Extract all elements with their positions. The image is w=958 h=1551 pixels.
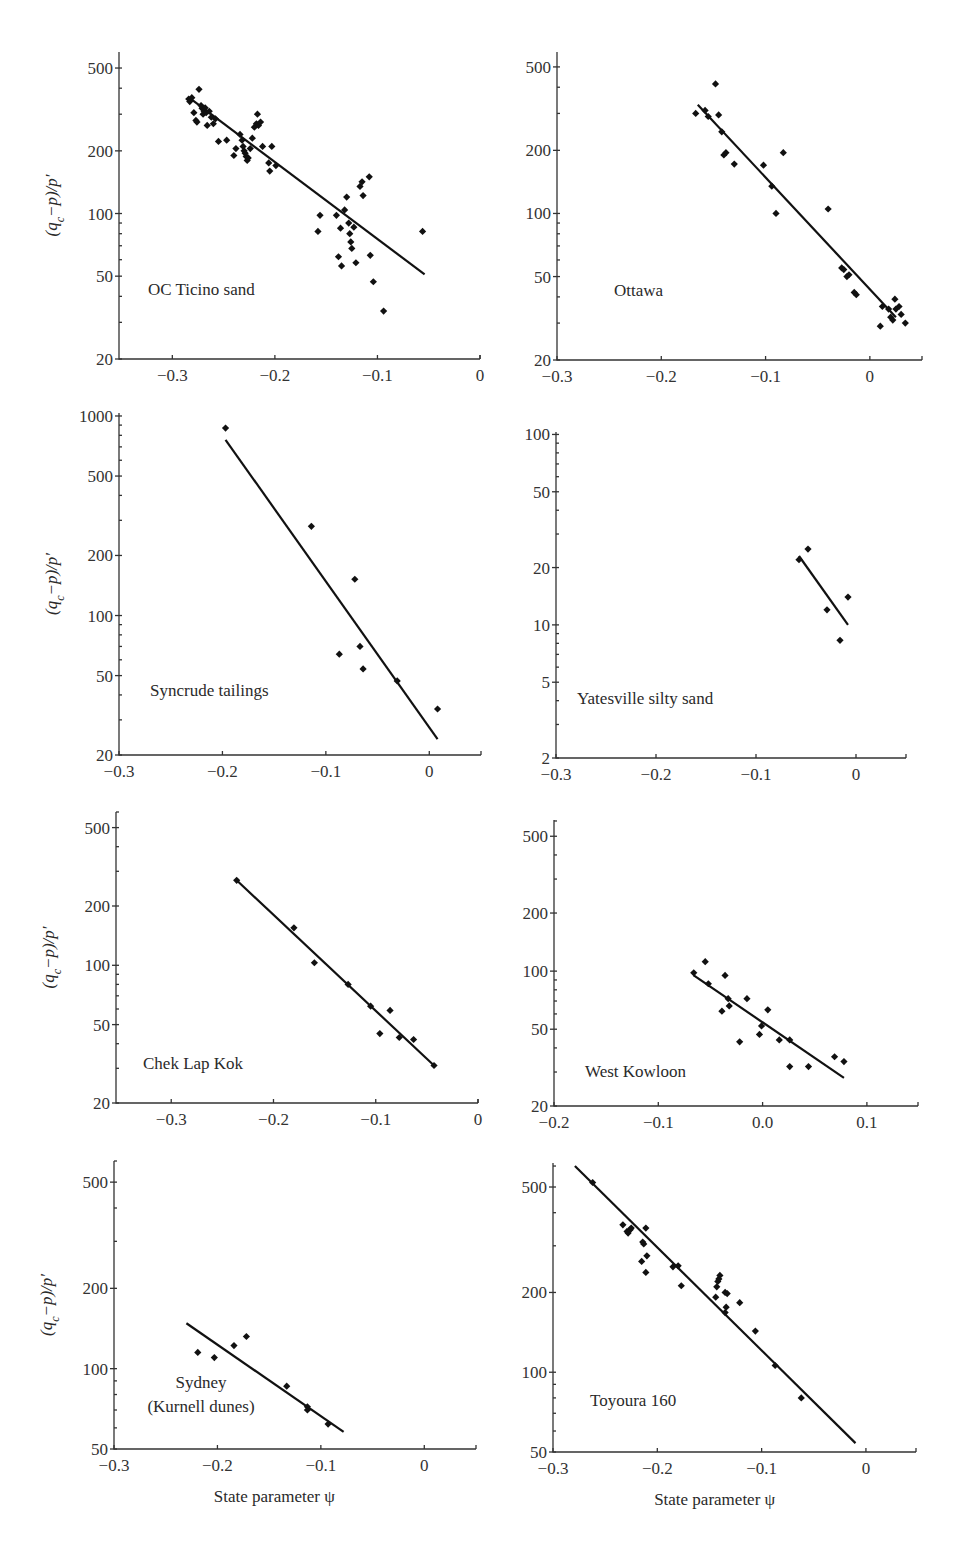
y-tick-label: 100 [88, 205, 114, 224]
y-tick-label: 100 [523, 962, 549, 981]
data-point [204, 122, 211, 129]
panel-yatesville-silty-sand: 25102050100−0.3−0.2−0.10Yatesville silty… [525, 425, 907, 784]
axes [557, 52, 922, 360]
figure-grid: 2050100200500−0.3−0.2−0.10OC Ticino sand… [0, 0, 958, 1551]
y-tick-label: 200 [526, 141, 552, 160]
y-tick-label: 100 [88, 607, 114, 626]
x-tick-label: −0.3 [157, 366, 188, 385]
y-tick-label: 50 [96, 267, 113, 286]
y-tick-label: 200 [522, 1283, 548, 1302]
x-tick-label: −0.2 [207, 762, 238, 781]
panel-label: West Kowloon [585, 1062, 687, 1081]
data-point [723, 1304, 730, 1311]
x-axis-label: State parameter ψ [214, 1487, 335, 1506]
data-point [211, 1354, 218, 1361]
trend-line [237, 880, 434, 1065]
x-tick-label: −0.1 [305, 1456, 336, 1475]
x-tick-label: 0 [425, 762, 434, 781]
x-tick-label: −0.1 [746, 1459, 777, 1478]
data-point [343, 193, 350, 200]
y-tick-label: 200 [88, 546, 114, 565]
data-point [701, 107, 708, 114]
x-tick-label: 0.1 [856, 1113, 877, 1132]
y-tick-label: 500 [523, 827, 549, 846]
panel-syncrude-tailings: 20501002005001000−0.3−0.2−0.10Syncrude t… [42, 407, 481, 781]
data-point [359, 192, 366, 199]
x-axis-label: State parameter ψ [654, 1490, 775, 1509]
panel-west-kowloon: 2050100200500−0.2−0.10.00.1West Kowloon [523, 820, 919, 1132]
x-tick-label: −0.1 [750, 367, 781, 386]
data-point [370, 278, 377, 285]
x-tick-label: −0.2 [258, 1110, 289, 1129]
data-point [823, 606, 830, 613]
panel-sydney-kurnell-dunes: 50100200500−0.3−0.2−0.10Sydney(Kurnell d… [37, 1161, 476, 1506]
panel-oc-ticino-sand: 2050100200500−0.3−0.2−0.10OC Ticino sand… [42, 52, 484, 385]
panel-label: Ottawa [614, 281, 664, 300]
data-point [891, 296, 898, 303]
data-point [642, 1269, 649, 1276]
data-point [731, 160, 738, 167]
y-tick-label: 500 [526, 58, 552, 77]
trend-line [191, 99, 425, 274]
data-point [844, 593, 851, 600]
data-point [736, 1038, 743, 1045]
data-point [776, 1036, 783, 1043]
panel-label: OC Ticino sand [148, 280, 255, 299]
y-tick-label: 100 [83, 1360, 109, 1379]
data-point [702, 958, 709, 965]
data-point [419, 228, 426, 235]
y-tick-label: 200 [85, 897, 111, 916]
data-point [678, 1282, 685, 1289]
data-point [351, 576, 358, 583]
x-tick-label: −0.3 [156, 1110, 187, 1129]
data-point [795, 556, 802, 563]
data-point [712, 80, 719, 87]
data-point [786, 1063, 793, 1070]
y-tick-label: 5 [542, 673, 551, 692]
data-point [266, 167, 273, 174]
y-tick-label: 200 [88, 142, 114, 161]
panel-label: Sydney [176, 1373, 228, 1392]
y-tick-label: 50 [533, 483, 550, 502]
data-point [190, 109, 197, 116]
data-point [743, 995, 750, 1002]
y-tick-label: 200 [83, 1279, 109, 1298]
y-tick-label: 100 [85, 956, 111, 975]
data-point [760, 162, 767, 169]
trend-line [799, 556, 848, 625]
axes [119, 52, 480, 359]
data-point [410, 1036, 417, 1043]
data-point [752, 1327, 759, 1334]
data-point [840, 1058, 847, 1065]
x-tick-label: −0.1 [741, 765, 772, 784]
data-point [222, 424, 229, 431]
data-point [898, 311, 905, 318]
data-point [756, 1031, 763, 1038]
data-point [772, 210, 779, 217]
data-point [726, 1002, 733, 1009]
data-point [692, 110, 699, 117]
data-point [798, 1394, 805, 1401]
data-point [690, 969, 697, 976]
y-tick-label: 50 [534, 268, 551, 287]
y-tick-label: 20 [96, 350, 113, 369]
panel-chek-lap-kok: 2050100200500−0.3−0.2−0.10Chek Lap Kok(q… [39, 812, 482, 1129]
panel-ottawa: 2050100200500−0.3−0.2−0.10Ottawa [526, 52, 923, 386]
axes [119, 413, 481, 755]
data-point [764, 1006, 771, 1013]
y-tick-label: 20 [93, 1094, 110, 1113]
data-point [643, 1252, 650, 1259]
data-point [675, 1262, 682, 1269]
data-point [347, 238, 354, 245]
data-point [638, 1258, 645, 1265]
data-point [308, 523, 315, 530]
y-tick-label: 100 [522, 1363, 548, 1382]
x-tick-label: −0.1 [362, 366, 393, 385]
data-point [380, 307, 387, 314]
y-axis-label: (qc−p)/p′ [37, 1274, 62, 1336]
data-point [333, 212, 340, 219]
data-point [722, 1309, 729, 1316]
data-point [386, 1007, 393, 1014]
data-point [902, 319, 909, 326]
x-tick-label: −0.3 [541, 765, 572, 784]
